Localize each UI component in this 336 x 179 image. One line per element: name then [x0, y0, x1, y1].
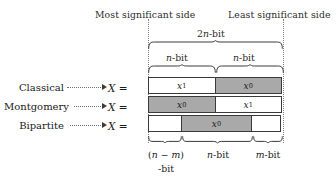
brace-2n-bit: [148, 40, 283, 49]
row-label-classical: Classical: [4, 82, 64, 93]
x-equals-montgomery: X =: [108, 101, 128, 113]
bottom-label-m-bit: m-bit: [240, 149, 296, 160]
arrow-icon-classical: [102, 84, 107, 90]
bitfield-cell: x0: [148, 96, 216, 113]
row-label-bipartite: Bipartite: [4, 120, 64, 131]
arrow-icon-montgomery: [102, 103, 107, 109]
total-width-label: 2n-bit: [197, 29, 225, 38]
brace-bottom-n-bit: [182, 136, 253, 144]
least-significant-side-caption: Least significant side: [228, 10, 331, 19]
bitfield-cell: x0: [181, 115, 252, 132]
x-equals-classical: X =: [108, 82, 128, 94]
most-significant-side-caption: Most significant side: [95, 10, 195, 19]
right-half-width-label: n-bit: [233, 53, 255, 62]
bottom-label-n-bit: n-bit: [190, 149, 246, 160]
leader-line-bipartite: [70, 125, 103, 127]
bitfield-row-bipartite: x0: [148, 115, 283, 132]
bottom-label-n-minus-m-bit-suffix: -bit: [131, 163, 201, 174]
bitfield-cell: [148, 115, 182, 132]
brace-n-minus-m-bit: [148, 136, 182, 144]
leader-line-montgomery: [74, 106, 103, 108]
guide-rail-right: [283, 19, 284, 143]
brace-n-bit-right: [216, 64, 284, 73]
bitfield-cell: [251, 115, 281, 132]
leader-line-classical: [67, 87, 103, 89]
bitfield-cell: x1: [215, 96, 283, 113]
brace-bottom-m-bit: [253, 136, 283, 144]
bitfield-cell: x1: [148, 77, 216, 94]
x-equals-bipartite: X =: [108, 120, 128, 132]
bit-field-partition-figure: Most significant side Least significant …: [0, 0, 336, 179]
brace-n-bit-left: [148, 64, 216, 73]
bitfield-row-montgomery: x0 x1: [148, 96, 283, 113]
bitfield-cell: x0: [215, 77, 283, 94]
bitfield-row-classical: x1 x0: [148, 77, 283, 94]
arrow-icon-bipartite: [102, 122, 107, 128]
row-label-montgomery: Montgomery: [4, 101, 64, 112]
left-half-width-label: n-bit: [166, 53, 188, 62]
